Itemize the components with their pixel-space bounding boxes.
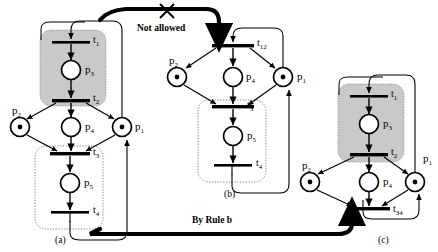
- net-c-arc-p2-to-t34: [317, 190, 352, 206]
- net-b-label-t4: t4: [256, 158, 262, 171]
- net-c-label-t34: t34: [393, 204, 403, 217]
- net-a-place-p4: [62, 118, 81, 137]
- net-a-token-p2: [18, 125, 23, 130]
- net-a-arc-p2-to-t3: [27, 135, 57, 151]
- net-c-arc-t34-to-p1: [363, 194, 419, 219]
- net-b-place-p5: [224, 127, 243, 146]
- net-a-label-t1: t1: [93, 35, 99, 48]
- net-a-token-p1: [120, 125, 125, 130]
- net-b: [168, 28, 293, 193]
- net-c-arc-t2-to-p2: [318, 157, 354, 174]
- net-a-label-p3: p3: [85, 64, 94, 78]
- net-c-place-p3: [360, 115, 379, 134]
- net-a-transition-t3: [50, 152, 90, 155]
- net-c-label-p1: p1: [423, 153, 432, 167]
- net-a-arc-t2-to-p1: [86, 103, 114, 119]
- net-a-arc-t2-to-p2: [27, 103, 56, 119]
- net-b-transition-t4: [214, 164, 252, 167]
- net-b-label-p2: p2: [169, 55, 178, 69]
- net-a-label-t2: t2: [93, 93, 99, 106]
- net-b-place-p4: [224, 68, 243, 87]
- net-b-arc-p2-to-t3: [184, 85, 216, 104]
- net-c-transition-t1: [350, 95, 388, 98]
- net-b-label-t3: t3: [247, 100, 253, 113]
- net-c-label-p2: p2: [302, 160, 311, 174]
- figure-canvas: t1 p3 t2 p2 p4 p1 t3 p5 t4 (a) t12 p2 p4…: [0, 0, 438, 252]
- net-c: [301, 75, 425, 219]
- net-a-place-p3: [62, 61, 81, 80]
- by-rule-b-label: By Rule b: [192, 216, 232, 226]
- net-a-arc-p1-to-t3: [86, 135, 115, 151]
- net-c-token-p2: [308, 180, 313, 185]
- net-b-label-p5: p5: [247, 130, 256, 144]
- net-a-label-p1: p1: [135, 121, 144, 135]
- net-b-transition-t12: [212, 44, 254, 47]
- not-allowed-label: Not allowed: [137, 24, 185, 34]
- net-b-label-p4: p4: [246, 71, 255, 85]
- net-a-label-p5: p5: [84, 177, 93, 191]
- net-c-place-p4: [360, 173, 379, 192]
- net-b-label-t12: t12: [257, 38, 267, 51]
- net-a: [11, 21, 132, 240]
- net-b-label-p1: p1: [297, 71, 306, 85]
- net-a-label-p4: p4: [85, 121, 94, 135]
- net-c-label-t2: t2: [391, 147, 397, 160]
- caption-a: (a): [55, 236, 66, 246]
- net-a-transition-t1: [52, 41, 90, 44]
- net-b-token-p1: [281, 75, 286, 80]
- net-c-label-p3: p3: [383, 118, 392, 132]
- net-b-token-p2: [175, 75, 180, 80]
- net-c-label-p4: p4: [383, 176, 392, 190]
- caption-c: (c): [378, 236, 389, 246]
- net-b-arc-t12-to-p1: [250, 48, 275, 68]
- net-c-transition-t2: [350, 153, 388, 156]
- net-a-transition-t2: [52, 99, 90, 102]
- net-a-label-t4: t4: [93, 205, 99, 218]
- net-a-label-p2: p2: [12, 105, 21, 119]
- net-b-arc-t12-to-p2: [186, 48, 216, 68]
- net-a-label-t3: t3: [93, 147, 99, 160]
- net-a-place-p5: [61, 174, 80, 193]
- caption-b: (b): [224, 190, 235, 200]
- net-c-label-t1: t1: [391, 89, 397, 102]
- net-c-transition-t34: [348, 207, 390, 210]
- net-c-token-p1: [413, 180, 418, 185]
